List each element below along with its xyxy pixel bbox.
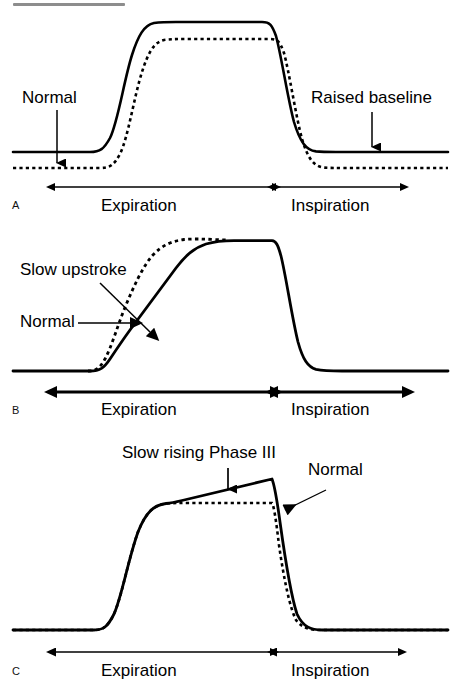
panel-c-expiration-label: Expiration	[101, 661, 177, 681]
panel-a-raised-baseline-trace	[13, 22, 448, 152]
panel-c-slow-rising-trace	[13, 479, 448, 630]
panel-c-waveforms	[13, 468, 448, 652]
panel-a-raised-baseline-label: Raised baseline	[311, 88, 432, 108]
panel-c-normal-label: Normal	[308, 460, 363, 480]
panel-b-normal-label: Normal	[20, 312, 75, 332]
panel-b-expiration-label: Expiration	[101, 400, 177, 420]
panel-c-inspiration-label: Inspiration	[291, 661, 369, 681]
panel-c-label: C	[12, 665, 20, 677]
panel-b-inspiration-label: Inspiration	[291, 400, 369, 420]
panel-b-slow-upstroke-arrow	[100, 283, 150, 332]
panel-c-slow-rising-phase-3-label: Slow rising Phase III	[122, 443, 276, 463]
panel-a-normal-label: Normal	[22, 88, 77, 108]
panel-c-normal-trace	[13, 503, 448, 630]
panel-a-label: A	[12, 199, 19, 211]
capnography-figure: Normal Raised baseline Expiration Inspir…	[0, 0, 458, 697]
panel-b-slow-upstroke-label: Slow upstroke	[20, 260, 127, 280]
panel-c-normal-arrow	[285, 490, 326, 510]
panel-a-inspiration-label: Inspiration	[291, 196, 369, 216]
panel-b-normal-trace	[88, 239, 226, 371]
panel-a-expiration-label: Expiration	[101, 196, 177, 216]
panel-b-label: B	[12, 404, 19, 416]
